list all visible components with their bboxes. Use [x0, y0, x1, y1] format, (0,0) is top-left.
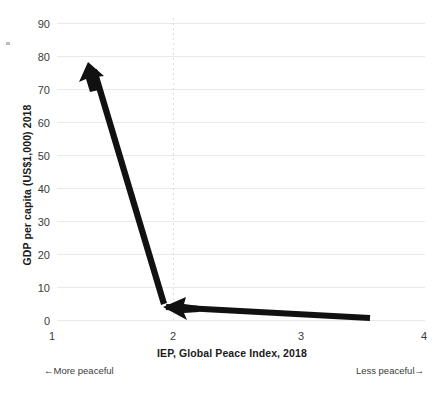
y-tick-label-80: 80 [38, 51, 50, 63]
annotation-less-peaceful: Less peaceful→ [356, 365, 424, 376]
x-tick-label-2: 2 [170, 330, 176, 342]
x-tick-label-1: 1 [49, 330, 55, 342]
x-axis-title: IEP, Global Peace Index, 2018 [157, 347, 307, 359]
chart-container: 90 80 70 60 50 40 30 20 10 0 1 2 3 4 GDP… [0, 0, 443, 397]
y-tick-label-60: 60 [38, 117, 50, 129]
y-tick-label-50: 50 [38, 150, 50, 162]
y-tick-label-40: 40 [38, 183, 50, 195]
y-tick-label-20: 20 [38, 249, 50, 261]
y-tick-label-10: 10 [38, 282, 50, 294]
y-tick-label-0: 0 [44, 315, 50, 327]
y-tick-label-70: 70 [38, 84, 50, 96]
chart-background [0, 0, 443, 397]
y-tick-label-30: 30 [38, 216, 50, 228]
x-tick-label-4: 4 [421, 330, 427, 342]
x-tick-label-3: 3 [298, 330, 304, 342]
margin-speck [6, 42, 10, 45]
y-tick-label-90: 90 [38, 18, 50, 30]
y-axis-title: GDP per capita (US$1,000) 2018 [21, 104, 33, 265]
annotation-more-peaceful: ←More peaceful [44, 365, 114, 376]
gdp-vs-peace-index-chart: 90 80 70 60 50 40 30 20 10 0 1 2 3 4 GDP… [0, 0, 443, 397]
